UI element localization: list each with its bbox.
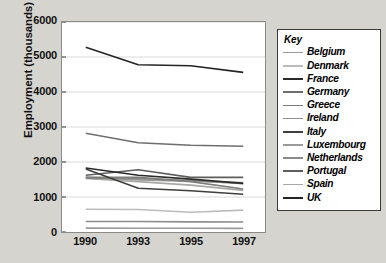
legend-swatch-ireland (283, 118, 303, 120)
legend-item-ireland: Ireland (283, 112, 377, 125)
legend-swatch-italy (283, 131, 303, 133)
legend-item-spain: Spain (283, 178, 377, 191)
legend-label: Ireland (307, 113, 338, 123)
y-tick-label: 4000 (23, 85, 57, 97)
legend-swatch-luxembourg (283, 144, 303, 146)
legend-swatch-spain (283, 184, 303, 186)
legend-item-luxembourg: Luxembourg (283, 138, 377, 151)
x-tick-label: 1997 (232, 235, 256, 247)
legend-label: Belgium (307, 47, 345, 57)
legend-title: Key (284, 34, 377, 45)
legend-swatch-france (283, 78, 303, 80)
legend-label: Italy (307, 127, 326, 137)
legend-label: Netherlands (307, 153, 363, 163)
legend-swatch-greece (283, 105, 303, 107)
legend-label: Luxembourg (307, 140, 366, 150)
y-tick-label: 5000 (23, 49, 57, 61)
legend-label: Denmark (307, 61, 349, 71)
x-axis-tick-labels: 1990199319951997 (0, 235, 386, 255)
plot-area (61, 21, 266, 233)
y-tick-label: 1000 (23, 191, 57, 203)
legend-item-portugal: Portugal (283, 165, 377, 178)
legend-swatch-netherlands (283, 157, 303, 159)
legend-item-belgium: Belgium (283, 46, 377, 59)
y-tick-label: 2000 (23, 155, 57, 167)
legend-item-germany: Germany (283, 86, 377, 99)
legend-item-france: France (283, 72, 377, 85)
legend-swatch-uk (283, 197, 303, 199)
legend-item-netherlands: Netherlands (283, 152, 377, 165)
legend-label: France (307, 74, 339, 84)
y-tick-label: 3000 (23, 120, 57, 132)
legend-items: BelgiumDenmarkFranceGermanyGreeceIreland… (283, 46, 377, 204)
y-axis-tick-labels: 0100020003000400050006000 (21, 0, 57, 263)
legend-item-greece: Greece (283, 99, 377, 112)
legend-label: Greece (307, 100, 340, 110)
legend-item-uk: UK (283, 191, 377, 204)
chart-figure: Employment (thousands) 01000200030004000… (0, 0, 386, 263)
series-line-ireland (86, 222, 243, 223)
legend-label: UK (307, 193, 321, 203)
legend-swatch-portugal (283, 170, 303, 172)
legend-swatch-denmark (283, 65, 303, 67)
legend-label: Spain (307, 179, 333, 189)
series-line-germany (86, 133, 243, 146)
y-tick-label: 6000 (23, 14, 57, 26)
legend-swatch-germany (283, 91, 303, 93)
x-tick-label: 1993 (126, 235, 150, 247)
x-tick-label: 1995 (179, 235, 203, 247)
series-line-denmark (86, 209, 243, 212)
legend-item-italy: Italy (283, 125, 377, 138)
legend-item-denmark: Denmark (283, 59, 377, 72)
series-line-uk (86, 47, 243, 72)
legend-label: Portugal (307, 166, 346, 176)
legend-box: Key BelgiumDenmarkFranceGermanyGreeceIre… (277, 29, 381, 211)
legend-swatch-belgium (283, 52, 303, 54)
x-tick-label: 1990 (73, 235, 97, 247)
legend-label: Germany (307, 87, 349, 97)
plot-svg (62, 22, 265, 232)
